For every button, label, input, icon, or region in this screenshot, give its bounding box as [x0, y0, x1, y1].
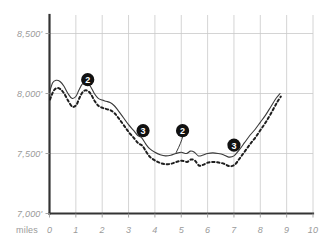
y-axis-tick-label: 7,000' [17, 209, 43, 219]
x-axis-tick-labels: 012345678910 [47, 225, 318, 235]
x-axis-tick-label: 7 [231, 225, 237, 235]
vertical-gridlines [50, 15, 314, 214]
trail-line-dashed [50, 88, 281, 166]
waypoint-badges-group: 2323 [81, 73, 240, 153]
badge-label: 3 [141, 126, 146, 136]
trail-line-solid [50, 80, 281, 157]
badge-label: 2 [180, 126, 185, 136]
y-axis-tick-label: 7,500' [17, 149, 43, 159]
x-axis-tick-label: 1 [73, 225, 78, 235]
y-axis-tick-labels: 7,000'7,500'8,000'8,500' [17, 29, 43, 219]
waypoint-badge[interactable]: 3 [227, 139, 240, 152]
x-axis-tick-label: 10 [308, 225, 318, 235]
x-axis-tick-label: 5 [179, 225, 185, 235]
x-axis-tick-label: 9 [284, 225, 289, 235]
waypoint-badge[interactable]: 3 [136, 124, 149, 137]
y-axis-tick-label: 8,500' [17, 29, 43, 39]
badge-label: 3 [231, 141, 236, 151]
waypoint-badge[interactable]: 2 [81, 73, 94, 86]
x-axis-tick-label: 8 [258, 225, 263, 235]
x-axis-tick-label: 4 [152, 225, 157, 235]
x-axis-tick-label: 0 [47, 225, 52, 235]
x-axis-tick-label: 2 [99, 225, 105, 235]
x-axis-title: miles [16, 225, 38, 235]
y-axis-tick-label: 8,000' [17, 89, 43, 99]
badge-label: 2 [85, 75, 90, 85]
x-axis-tick-label: 6 [205, 225, 210, 235]
chart-canvas: 7,000'7,500'8,000'8,500' 012345678910 mi… [0, 0, 327, 246]
elevation-profile-chart: 7,000'7,500'8,000'8,500' 012345678910 mi… [0, 0, 327, 246]
x-axis-tick-label: 3 [126, 225, 131, 235]
waypoint-badge[interactable]: 2 [176, 124, 189, 137]
